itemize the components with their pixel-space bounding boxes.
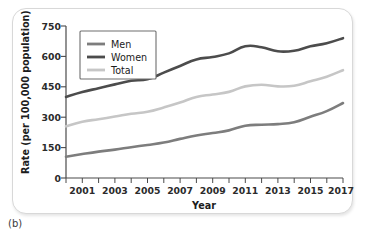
y-axis-ticks xyxy=(61,26,66,178)
x-tick-label: 2005 xyxy=(135,185,161,196)
y-tick-label: 750 xyxy=(42,21,62,32)
x-tick-label: 2009 xyxy=(200,185,226,196)
line-chart: Rate (per 100,000 population) 750 600 45… xyxy=(13,9,354,215)
y-tick-label: 300 xyxy=(42,112,62,123)
figure-panel: Rate (per 100,000 population) 750 600 45… xyxy=(12,8,353,214)
y-tick-label: 0 xyxy=(55,173,62,184)
x-axis-title: Year xyxy=(191,200,216,211)
y-tick-label: 600 xyxy=(42,51,62,62)
legend: Men Women Total xyxy=(80,31,156,79)
legend-label-men: Men xyxy=(111,39,131,50)
x-axis-ticks xyxy=(66,178,343,183)
y-axis-title: Rate (per 100,000 population) xyxy=(20,10,31,174)
x-tick-label: 2007 xyxy=(167,185,193,196)
y-tick-label: 150 xyxy=(42,142,62,153)
y-tick-label: 450 xyxy=(42,81,62,92)
x-tick-labels: 2001 2003 2005 2007 2009 2011 2013 2015 … xyxy=(69,185,354,196)
x-tick-label: 2017 xyxy=(328,185,354,196)
legend-label-total: Total xyxy=(110,65,133,76)
series-line-men xyxy=(66,103,343,157)
x-tick-label: 2001 xyxy=(69,185,95,196)
y-tick-labels: 750 600 450 300 150 0 xyxy=(42,21,62,184)
x-tick-label: 2015 xyxy=(298,185,324,196)
x-tick-label: 2013 xyxy=(265,185,291,196)
x-tick-label: 2003 xyxy=(102,185,128,196)
legend-label-women: Women xyxy=(111,52,147,63)
x-tick-label: 2011 xyxy=(232,185,258,196)
figure-caption: (b) xyxy=(8,218,22,229)
